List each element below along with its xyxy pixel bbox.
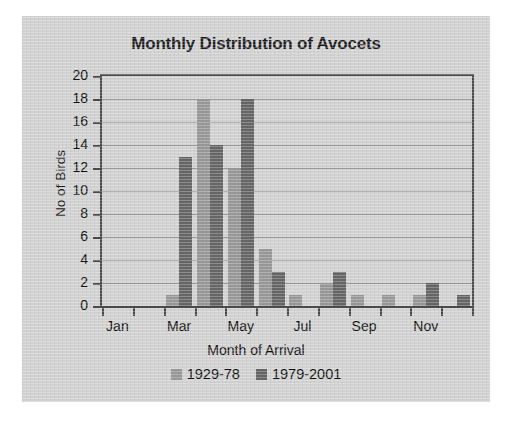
bar-group	[318, 76, 349, 306]
y-tick-mark	[93, 191, 100, 193]
x-tick-mark	[195, 308, 197, 316]
y-tick-mark	[93, 76, 100, 78]
y-tick-mark	[93, 122, 100, 124]
x-tick-label: Jan	[87, 318, 147, 334]
bar-group	[287, 76, 318, 306]
y-tick-label: 0	[32, 297, 88, 313]
y-tick-mark	[93, 145, 100, 147]
bar	[426, 283, 439, 306]
bar	[272, 272, 285, 307]
y-tick-label: 6	[32, 228, 88, 244]
y-tick-label: 16	[32, 113, 88, 129]
y-tick-label: 14	[32, 136, 88, 152]
x-tick-label: Sep	[334, 318, 394, 334]
bar	[179, 157, 192, 307]
legend-swatch	[256, 369, 267, 380]
x-tick-mark	[380, 308, 382, 316]
bar	[320, 283, 333, 306]
bar	[382, 295, 395, 307]
x-tick-mark	[441, 308, 443, 316]
x-tick-mark	[287, 308, 289, 316]
x-tick-label: Jul	[272, 318, 332, 334]
bar	[228, 168, 241, 306]
bar	[166, 295, 179, 307]
bar	[289, 295, 302, 307]
bar-group	[102, 76, 133, 306]
bar-group	[133, 76, 164, 306]
y-tick-label: 18	[32, 90, 88, 106]
x-tick-mark	[410, 308, 412, 316]
bar-group	[349, 76, 380, 306]
x-axis-tick-labels: JanMarMayJulSepNov	[102, 318, 472, 340]
bar	[413, 295, 426, 307]
bar-group	[410, 76, 441, 306]
bar	[197, 99, 210, 306]
x-tick-mark	[164, 308, 166, 316]
y-tick-label: 2	[32, 274, 88, 290]
legend-label: 1929-78	[187, 366, 240, 382]
legend-item: 1979-2001	[256, 366, 341, 382]
y-tick-mark	[93, 99, 100, 101]
x-tick-mark	[225, 308, 227, 316]
x-tick-mark	[349, 308, 351, 316]
x-tick-label: Nov	[396, 318, 456, 334]
bar-group	[380, 76, 411, 306]
y-tick-label: 8	[32, 205, 88, 221]
bar	[210, 145, 223, 306]
chart-page: Monthly Distribution of Avocets No of Bi…	[0, 0, 510, 422]
bar	[333, 272, 346, 307]
gridline	[102, 306, 472, 307]
bar-group	[441, 76, 472, 306]
bar-group	[195, 76, 226, 306]
y-tick-label: 10	[32, 182, 88, 198]
x-axis-title: Month of Arrival	[22, 342, 490, 358]
bar-group	[225, 76, 256, 306]
bar-group	[256, 76, 287, 306]
y-tick-label: 12	[32, 159, 88, 175]
bars-layer	[102, 76, 472, 306]
y-tick-mark	[93, 237, 100, 239]
chart-legend: 1929-781979-2001	[22, 366, 490, 382]
y-axis-ticks: 20181614121086420	[22, 74, 100, 308]
scanned-page-panel: Monthly Distribution of Avocets No of Bi…	[22, 16, 490, 402]
legend-swatch	[171, 369, 182, 380]
bar	[351, 295, 364, 307]
y-tick-label: 20	[32, 67, 88, 83]
x-tick-label: Mar	[149, 318, 209, 334]
y-tick-mark	[93, 283, 100, 285]
y-tick-mark	[93, 260, 100, 262]
bar-group	[164, 76, 195, 306]
x-tick-mark	[256, 308, 258, 316]
x-axis-ticks	[102, 308, 472, 316]
x-tick-mark	[318, 308, 320, 316]
chart-title: Monthly Distribution of Avocets	[22, 34, 490, 54]
bar	[457, 295, 470, 307]
y-tick-label: 4	[32, 251, 88, 267]
bar	[259, 249, 272, 307]
x-tick-mark	[133, 308, 135, 316]
y-tick-mark	[93, 214, 100, 216]
legend-item: 1929-78	[171, 366, 240, 382]
y-tick-mark	[93, 168, 100, 170]
bar	[241, 99, 254, 306]
x-tick-mark	[472, 308, 474, 316]
x-tick-label: May	[211, 318, 271, 334]
legend-label: 1979-2001	[272, 366, 341, 382]
x-tick-mark	[102, 308, 104, 316]
y-tick-mark	[93, 306, 100, 308]
